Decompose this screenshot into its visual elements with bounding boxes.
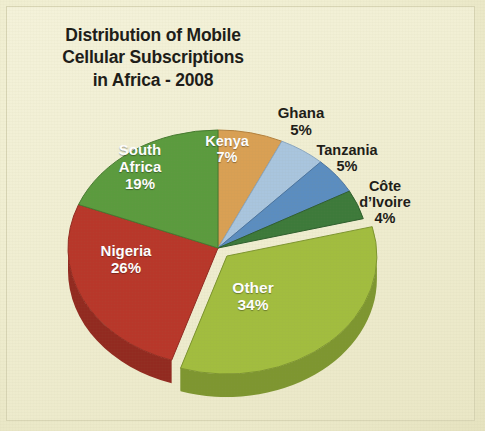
slice-label-cote-divoire: Côte d’Ivoire 4%	[340, 178, 430, 227]
slice-label-ghana: Ghana 5%	[259, 105, 343, 139]
slice-label-nigeria: Nigeria 26%	[74, 243, 178, 277]
slice-label-other: Other 34%	[208, 279, 298, 314]
chart-page: Distribution of Mobile Cellular Subscrip…	[0, 0, 485, 431]
slice-label-south-africa: South Africa 19%	[92, 142, 188, 192]
slice-label-tanzania: Tanzania 5%	[300, 142, 394, 174]
slice-label-kenya: Kenya 7%	[196, 133, 258, 165]
